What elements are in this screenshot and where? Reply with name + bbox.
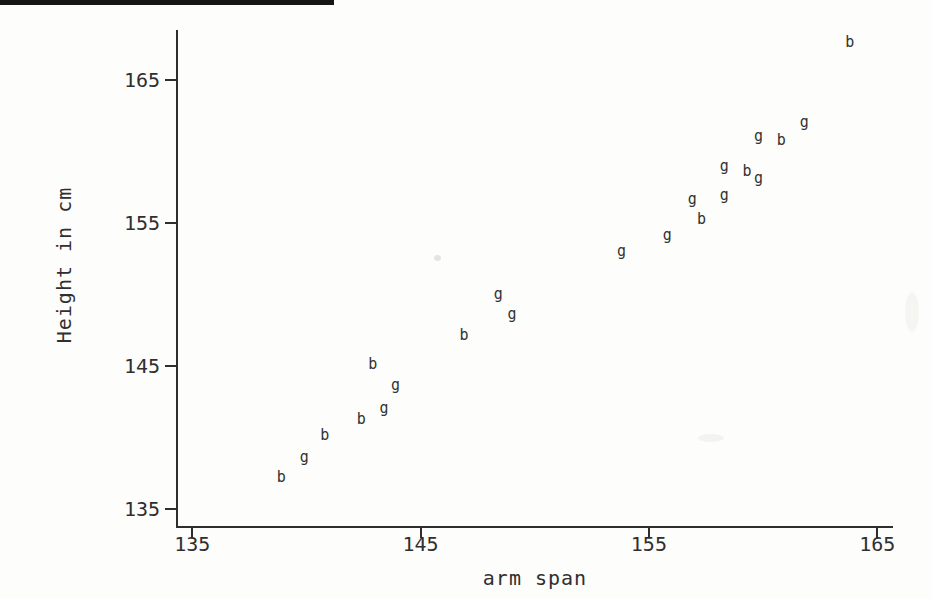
y-tick-mark: [165, 79, 176, 81]
y-axis-line: [176, 30, 178, 527]
y-tick-label: 165: [100, 70, 160, 90]
data-point-g: g: [754, 171, 763, 186]
y-tick-label: 155: [100, 213, 160, 233]
data-point-g: g: [800, 115, 809, 130]
scan-artifact-bar: [0, 0, 334, 5]
scanned-scatter-plot-page: 135145155165 135145155165 bbbbbbbbbggggg…: [0, 0, 932, 599]
x-tick-label: 135: [162, 534, 222, 554]
data-point-b: b: [777, 134, 786, 149]
x-axis-line: [176, 526, 893, 528]
data-point-b: b: [697, 212, 706, 227]
x-tick-label: 145: [391, 534, 451, 554]
data-point-b: b: [459, 328, 468, 343]
data-point-b: b: [845, 35, 854, 50]
y-axis-title: Height in cm: [53, 185, 75, 345]
data-point-b: b: [357, 413, 366, 428]
data-point-b: b: [277, 470, 286, 485]
data-point-g: g: [380, 401, 389, 416]
scan-smudge: [905, 292, 919, 332]
y-tick-mark: [165, 365, 176, 367]
x-tick-label: 165: [847, 534, 907, 554]
data-point-g: g: [507, 307, 516, 322]
y-tick-mark: [165, 508, 176, 510]
data-point-b: b: [320, 428, 329, 443]
data-point-b: b: [368, 357, 377, 372]
y-tick-mark: [165, 222, 176, 224]
data-point-g: g: [688, 192, 697, 207]
data-point-g: g: [300, 450, 309, 465]
data-point-g: g: [720, 188, 729, 203]
scan-smudge: [698, 434, 724, 442]
x-axis-title: arm span: [435, 567, 635, 589]
data-point-g: g: [494, 287, 503, 302]
data-point-g: g: [754, 129, 763, 144]
x-tick-label: 155: [619, 534, 679, 554]
y-tick-label: 135: [100, 499, 160, 519]
data-point-g: g: [617, 244, 626, 259]
scan-smudge: [434, 255, 441, 261]
data-point-b: b: [743, 164, 752, 179]
data-point-g: g: [720, 159, 729, 174]
data-point-g: g: [663, 228, 672, 243]
y-tick-label: 145: [100, 356, 160, 376]
data-point-g: g: [391, 378, 400, 393]
